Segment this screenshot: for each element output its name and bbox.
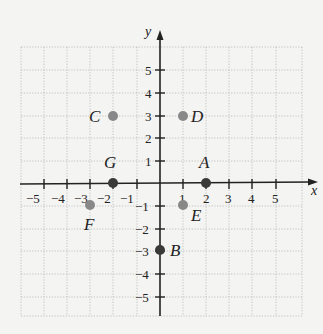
label-a: A [198,153,210,172]
svg-text:1: 1 [145,154,152,169]
svg-text:4: 4 [145,86,152,101]
label-b: B [170,241,181,260]
point-c [108,111,118,121]
label-d: D [190,107,204,126]
svg-text:2: 2 [145,131,152,146]
coordinate-plane: x y −5 −4 −3 −2 −1 1 2 3 4 5 [0,0,323,334]
svg-text:−3: −3 [135,244,149,259]
point-a [201,178,211,188]
svg-text:−5: −5 [135,290,149,305]
label-f: F [83,215,95,234]
label-c: C [89,107,101,126]
svg-text:−1: −1 [135,199,149,214]
svg-text:−5: −5 [26,191,40,206]
svg-text:2: 2 [203,191,210,206]
x-tick-labels: −5 −4 −3 −2 −1 1 2 3 4 5 [26,191,279,206]
svg-text:3: 3 [225,191,232,206]
label-g: G [104,153,116,172]
point-d [178,111,188,121]
svg-text:−2: −2 [135,222,149,237]
grid [21,47,302,316]
svg-text:3: 3 [145,109,152,124]
point-b [155,245,165,255]
y-axis-label: y [143,24,152,39]
point-f [85,200,95,210]
svg-text:−2: −2 [97,191,111,206]
x-axis [20,182,312,184]
y-axis-arrow-icon [157,30,164,40]
svg-text:5: 5 [272,191,279,206]
svg-text:5: 5 [145,63,152,78]
svg-text:−4: −4 [51,191,65,206]
svg-text:−1: −1 [120,191,134,206]
svg-text:4: 4 [248,191,255,206]
label-e: E [190,206,202,225]
point-g [108,178,118,188]
x-axis-label: x [310,183,318,198]
svg-text:−4: −4 [135,267,149,282]
point-e [178,200,188,210]
